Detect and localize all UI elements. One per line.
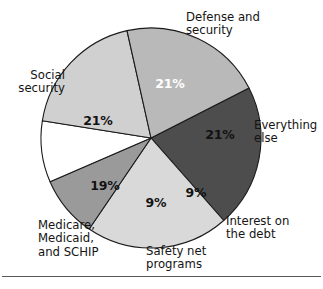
slice-value-social-security: 21% xyxy=(83,113,112,128)
slice-label-social-security: Social security xyxy=(13,69,65,96)
slice-label-defense: Defense and security xyxy=(186,11,260,38)
slice-label-interest-line1: Interest on xyxy=(226,215,289,228)
slice-label-interest-on-the-debt: Interest on the debt xyxy=(226,215,289,242)
slice-label-everything-else-line2: else xyxy=(254,132,317,145)
slice-value-defense: 21% xyxy=(155,76,184,91)
slice-value-medicare-medicaid-schip: 19% xyxy=(90,178,119,193)
slice-label-social-security-line1: Social xyxy=(13,69,65,82)
pie-chart-figure: 21% 21% 9% 9% 19% 21% Defense and securi… xyxy=(0,0,323,289)
slice-label-medicare-line1: Medicare, xyxy=(38,219,99,232)
slice-label-social-security-line2: security xyxy=(13,82,65,95)
slice-label-interest-line2: the debt xyxy=(226,228,289,241)
slice-label-medicare-medicaid-schip: Medicare, Medicaid, and SCHIP xyxy=(38,219,99,259)
slice-label-everything-else: Everything else xyxy=(254,119,317,146)
slice-label-everything-else-line1: Everything xyxy=(254,119,317,132)
slice-value-everything-else: 21% xyxy=(205,127,234,142)
slice-label-medicare-line3: and SCHIP xyxy=(38,246,99,259)
slice-value-interest-on-the-debt: 9% xyxy=(186,185,207,200)
footer-divider xyxy=(2,276,321,277)
slice-label-defense-line2: security xyxy=(186,24,260,37)
slice-value-safety-net-programs: 9% xyxy=(146,195,167,210)
slice-label-safety-net-line1: Safety net xyxy=(146,245,206,258)
slice-label-safety-net-line2: programs xyxy=(146,258,206,271)
slice-label-medicare-line2: Medicaid, xyxy=(38,232,99,245)
slice-label-safety-net-programs: Safety net programs xyxy=(146,245,206,272)
slice-label-defense-line1: Defense and xyxy=(186,11,260,24)
